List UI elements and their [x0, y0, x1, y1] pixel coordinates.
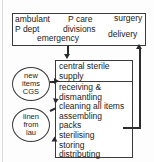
department-label-ambulant: ambulant	[15, 15, 50, 24]
flowchart-canvas: ambulant P dept P care divisions emergen…	[0, 0, 154, 162]
hospital-departments-box: ambulant P dept P care divisions emergen…	[12, 13, 146, 46]
supply-header-line-2: supply	[59, 72, 130, 82]
connector-return-vertical	[139, 48, 141, 128]
input-node-new-items-cgs: new items CGS	[12, 67, 50, 101]
arrow-tick-icon-storing	[52, 137, 58, 142]
arrow-right-icon-new-items-to-supply	[54, 78, 59, 84]
central-sterile-supply-header: central sterile supply	[56, 61, 132, 82]
linen-line-3: lau	[26, 129, 36, 137]
department-label-p-care: P care	[68, 15, 92, 24]
department-label-delivery: delivery	[108, 30, 137, 39]
input-node-linen-from-lau: linen from lau	[12, 108, 50, 142]
department-label-p-dept: P dept	[15, 25, 39, 34]
supply-step-distributing: distributing	[59, 150, 130, 160]
page-margin-rule	[2, 0, 3, 162]
arrow-up-icon-supply-to-departments	[136, 44, 142, 49]
central-sterile-supply-box: central sterile supply receiving & disma…	[55, 60, 133, 158]
department-label-emergency: emergency	[37, 34, 79, 43]
arrow-down-icon-departments-to-supply	[64, 54, 70, 59]
supply-step-list: receiving & dismantling cleaning all ite…	[56, 83, 132, 160]
department-label-surgery: surgery	[114, 14, 142, 23]
new-items-line-3: CGS	[23, 88, 39, 96]
